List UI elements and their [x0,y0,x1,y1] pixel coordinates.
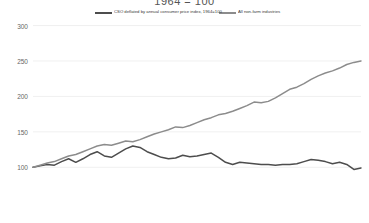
legend-item-all-non-farm-industries[interactable]: All non-farm industries [219,11,274,15]
y-axis-tick-label: 100 [17,164,28,171]
y-axis-tick-label: 150 [17,128,28,135]
plot-svg [33,22,361,185]
chart-container: 1964 = 100 CSO deflated by annual consum… [0,0,369,223]
gridlines [33,26,361,168]
legend-item-label: All non-farm industries [238,11,280,15]
plot-area [33,22,361,185]
legend-line-swatch-icon [95,12,112,14]
series-line [33,61,361,167]
legend-line-swatch-icon [219,12,236,14]
y-axis-tick-label: 200 [17,93,28,100]
chart-legend: CSO deflated by annual consumer price in… [0,11,369,15]
legend-item-cso-deflated[interactable]: CSO deflated by annual consumer price in… [95,11,205,15]
legend-item-label: CSO deflated by annual consumer price in… [114,11,222,15]
series-line [33,146,361,169]
y-axis: 100150200250300 [0,0,28,223]
y-axis-tick-label: 300 [17,22,28,29]
series-lines [33,61,361,169]
chart-title: 1964 = 100 [0,0,369,7]
y-axis-tick-label: 250 [17,57,28,64]
